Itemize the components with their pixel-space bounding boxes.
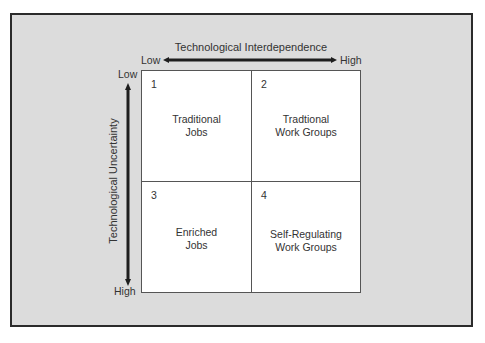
quadrant-label: Traditional Jobs (142, 113, 251, 139)
quadrant-number: 1 (151, 78, 157, 90)
quadrant-label-line: Work Groups (252, 241, 360, 254)
quadrant-label-line: Jobs (142, 126, 251, 139)
quadrant-2: 2 Tradtional Work Groups (252, 71, 360, 182)
quadrant-label-line: Traditional (142, 113, 251, 126)
quadrant-number: 2 (261, 78, 267, 90)
x-axis-title: Technological Interdependence (141, 41, 361, 53)
quadrant-label-line: Self-Regulating (252, 228, 360, 241)
y-axis-high-label: High (114, 285, 136, 297)
quadrant-label: Enriched Jobs (142, 226, 251, 252)
vertical-double-arrow-icon (124, 83, 132, 286)
quadrant-3: 3 Enriched Jobs (142, 182, 252, 292)
horizontal-double-arrow-icon (163, 57, 337, 63)
quadrant-label-line: Jobs (142, 239, 251, 252)
quadrant-label: Tradtional Work Groups (252, 113, 360, 139)
quadrant-label-line: Tradtional (252, 113, 360, 126)
quadrant-4: 4 Self-Regulating Work Groups (252, 182, 360, 292)
y-axis-low-label: Low (118, 68, 137, 80)
y-axis-title: Technological Uncertainty (107, 118, 119, 243)
quadrant-number: 4 (261, 189, 267, 201)
x-axis-high-label: High (340, 54, 362, 66)
quadrant-number: 3 (151, 189, 157, 201)
x-axis-low-label: Low (141, 54, 160, 66)
quadrant-label: Self-Regulating Work Groups (252, 228, 360, 254)
quadrant-1: 1 Traditional Jobs (142, 71, 252, 182)
quadrant-grid: 1 Traditional Jobs 2 Tradtional Work Gro… (141, 70, 361, 293)
quadrant-label-line: Work Groups (252, 126, 360, 139)
quadrant-label-line: Enriched (142, 226, 251, 239)
